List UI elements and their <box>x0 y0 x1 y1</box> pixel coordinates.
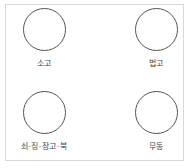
circle-icon <box>23 91 66 134</box>
node-sogo: 소고 <box>14 8 74 68</box>
circle-icon <box>135 91 178 134</box>
node-mudong: 무동 <box>126 91 186 151</box>
node-soe-jing-janggo-buk: 쇠·징·장고·북 <box>14 91 74 151</box>
circle-icon <box>23 8 66 51</box>
node-label: 소고 <box>14 57 74 68</box>
circle-icon <box>135 8 178 51</box>
node-beopgo: 법고 <box>126 8 186 68</box>
node-label: 법고 <box>126 57 186 68</box>
node-label: 쇠·징·장고·북 <box>14 140 74 151</box>
node-label: 무동 <box>126 140 186 151</box>
